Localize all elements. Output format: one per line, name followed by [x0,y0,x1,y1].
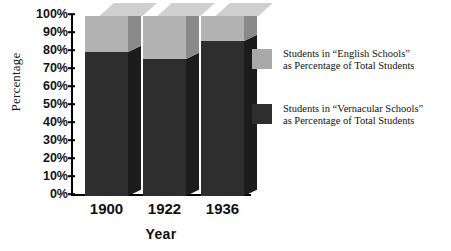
segment-top [215,3,272,16]
legend-swatch [252,104,272,124]
legend-label-line1: Students in “English Schools” [283,48,414,60]
legend-label-line2: as Percentage of Total Students [283,60,414,72]
x-axis-ticks: 190019221936 [71,200,271,222]
legend-label: Students in “Vernacular Schools”as Perce… [283,103,423,126]
segment-english-1922[interactable] [143,16,186,59]
y-tick-label: 10% [43,169,68,183]
y-tick-label: 20% [43,151,68,165]
y-tick-label: 80% [43,43,68,57]
segment-side [186,10,199,60]
legend-swatch [252,49,272,69]
segment-front [143,59,186,196]
x-tick-label-1922: 1922 [137,200,193,217]
y-tick-label: 90% [43,25,68,39]
segment-vernacular-1936[interactable] [201,41,244,196]
y-tick-label: 100% [36,7,68,21]
segment-front [201,16,244,41]
legend-label-line2: as Percentage of Total Students [283,115,423,127]
y-axis-line [71,14,73,196]
y-axis-ticks: 0%10%20%30%40%50%60%70%80%90%100% [22,8,68,198]
segment-front [143,16,186,59]
segment-side [128,46,141,196]
legend-item-vernacular-schools[interactable]: Students in “Vernacular Schools”as Perce… [252,103,423,126]
y-tick-label: 50% [43,97,68,111]
bar-1900[interactable] [85,14,128,196]
y-tick-label: 0% [50,187,68,201]
segment-side [128,10,141,52]
bar-1922[interactable] [143,14,186,196]
legend-label: Students in “English Schools”as Percenta… [283,48,414,71]
segment-front [201,41,244,196]
x-axis-label: Year [71,226,251,242]
y-tick-label: 60% [43,79,68,93]
y-tick-label: 30% [43,133,68,147]
y-tick-label: 40% [43,115,68,129]
legend-label-line1: Students in “Vernacular Schools” [283,103,423,115]
segment-english-1936[interactable] [201,16,244,41]
x-tick-label-1936: 1936 [195,200,251,217]
x-tick-label-1900: 1900 [79,200,135,217]
segment-vernacular-1900[interactable] [85,52,128,196]
y-tick-label: 70% [43,61,68,75]
bar-1936[interactable] [201,14,244,196]
segment-english-1900[interactable] [85,16,128,52]
segment-vernacular-1922[interactable] [143,59,186,196]
segment-front [85,16,128,52]
segment-front [85,52,128,196]
segment-side [186,53,199,196]
plot-area [71,14,251,196]
stacked-bar-chart: Percentage 0%10%20%30%40%50%60%70%80%90%… [0,0,451,251]
legend-item-english-schools[interactable]: Students in “English Schools”as Percenta… [252,48,414,71]
